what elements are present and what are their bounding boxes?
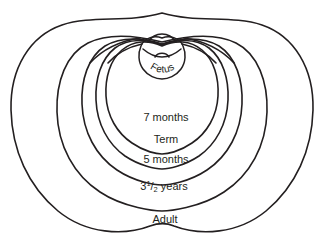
skull-outlines-svg: Fetus 7 months Term 5 months 31/2 years … <box>0 0 324 246</box>
skull-growth-figure: Fetus 7 months Term 5 months 31/2 years … <box>0 0 324 246</box>
label-five-months: 5 months <box>143 153 189 165</box>
label-seven-months: 7 months <box>143 111 189 123</box>
fraction-unit-text: years <box>161 180 188 192</box>
label-term: Term <box>154 133 178 145</box>
label-adult: Adult <box>152 213 177 225</box>
figure-background <box>0 0 324 246</box>
